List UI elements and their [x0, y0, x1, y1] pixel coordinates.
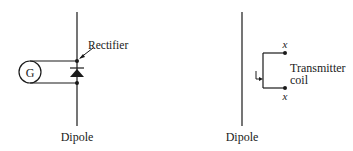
terminal-top-label: x	[282, 38, 288, 50]
right-dipole-circuit: x x Transmitter coil Dipole	[226, 12, 346, 144]
coil-label-line2: coil	[290, 73, 309, 87]
junction-dot-bottom	[75, 81, 79, 85]
coil-terminal-top	[283, 51, 287, 55]
diagram-canvas: G Rectifier Dipole x x Transmitter coil	[0, 0, 353, 151]
terminal-bottom-label: x	[282, 90, 288, 102]
junction-dot-top	[75, 59, 79, 63]
right-dipole-label: Dipole	[226, 130, 259, 144]
diode-triangle	[70, 69, 84, 77]
rectifier-diode-icon	[70, 68, 84, 77]
left-dipole-label: Dipole	[61, 130, 94, 144]
rectifier-label: Rectifier	[88, 39, 128, 51]
generator-label: G	[26, 66, 35, 80]
transmitter-coil	[256, 51, 287, 90]
left-dipole-circuit: G Rectifier Dipole	[19, 12, 128, 144]
